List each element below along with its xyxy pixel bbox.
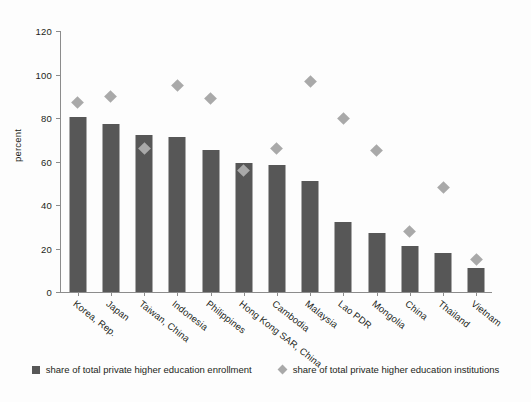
x-axis-tick-label: Thailand [436,298,472,330]
bar[interactable] [302,181,319,292]
diamond-marker[interactable] [470,253,483,266]
x-axis-tick [443,292,444,296]
diamond-marker[interactable] [304,75,317,88]
category-slot: Lao PDR [327,31,360,292]
x-axis-tick-label: Mongolia [370,298,408,331]
x-axis-tick-label: China [403,298,430,322]
diamond-marker[interactable] [404,225,417,238]
y-axis-tick-label: 0 [47,287,52,298]
legend-entry[interactable]: share of total private higher education … [278,364,500,375]
category-slot: Japan [94,31,127,292]
category-slot: Mongolia [360,31,393,292]
diamond-marker[interactable] [271,142,284,155]
diamond-marker[interactable] [337,112,350,125]
diamond-marker[interactable] [437,181,450,194]
x-axis-tick [476,292,477,296]
category-slot: Malaysia [294,31,327,292]
diamond-marker[interactable] [104,90,117,103]
x-axis-tick [78,292,79,296]
x-axis-tick-label: Japan [104,298,132,323]
bar[interactable] [401,246,418,292]
bar[interactable] [136,135,153,292]
x-axis-tick [244,292,245,296]
legend-label: share of total private higher education … [293,364,500,375]
x-axis-tick [377,292,378,296]
x-axis-tick [111,292,112,296]
chart-figure: percent 020406080100120 Korea, Rep.Japan… [0,0,531,402]
diamond-marker[interactable] [204,92,217,105]
bar[interactable] [368,233,385,292]
chart-legend: share of total private higher education … [0,364,531,375]
x-axis-tick [410,292,411,296]
plot-area: 020406080100120 Korea, Rep.JapanTaiwan, … [60,31,492,293]
legend-entry[interactable]: share of total private higher education … [32,364,252,375]
bar[interactable] [435,253,452,292]
bar[interactable] [102,124,119,292]
diamond-marker[interactable] [71,96,84,109]
legend-label: share of total private higher education … [46,364,252,375]
x-axis-tick [211,292,212,296]
category-slot: Thailand [427,31,460,292]
bar[interactable] [468,268,485,292]
category-slot: China [393,31,426,292]
x-axis-tick [343,292,344,296]
bar[interactable] [268,165,285,292]
y-axis-tick-label: 80 [41,113,52,124]
category-slot: Philippines [194,31,227,292]
y-axis-tick-label: 120 [36,26,52,37]
category-slot: Cambodia [260,31,293,292]
bar[interactable] [335,222,352,292]
category-slot: Hong Kong SAR, China [227,31,260,292]
diamond-marker[interactable] [370,144,383,157]
bar[interactable] [69,117,86,292]
diamond-swatch-icon [277,365,287,375]
bar[interactable] [169,137,186,292]
category-slot: Taiwan, China [127,31,160,292]
y-axis-tick-label: 100 [36,69,52,80]
y-axis-tick-label: 60 [41,156,52,167]
y-axis-title: percent [12,129,23,162]
x-axis-tick [144,292,145,296]
bar[interactable] [202,150,219,292]
x-axis-tick [177,292,178,296]
y-axis-tick-label: 40 [41,200,52,211]
bar[interactable] [235,163,252,292]
y-axis-tick [56,292,61,293]
category-slot: Korea, Rep. [61,31,94,292]
x-axis-tick [310,292,311,296]
y-axis-tick-label: 20 [41,243,52,254]
category-slot: Indonesia [161,31,194,292]
diamond-marker[interactable] [171,79,184,92]
x-axis-tick-label: Lao PDR [337,298,375,331]
category-slot: Vietnam [460,31,493,292]
x-axis-tick [277,292,278,296]
x-axis-tick-label: Vietnam [470,298,505,328]
square-swatch-icon [32,366,40,374]
